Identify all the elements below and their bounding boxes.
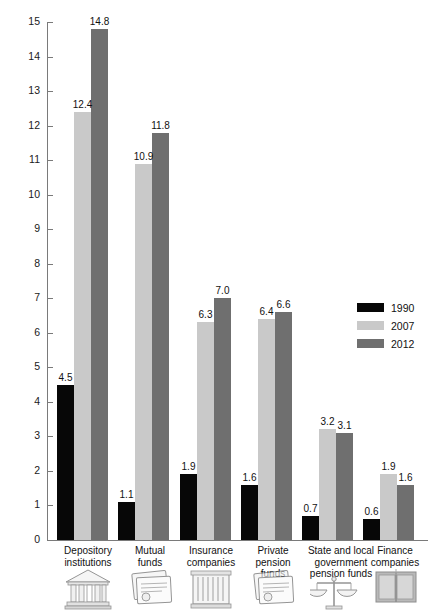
y-axis-tick-label: 7 [0,292,40,303]
bar-2007-5 [319,429,336,540]
bar-1990-1 [57,385,74,540]
y-axis-tick [47,22,53,23]
bar-value-label: 1.1 [113,490,141,500]
y-axis-tick-label: 10 [0,189,40,200]
bar-value-label: 1.6 [236,473,264,483]
y-axis-tick [47,402,53,403]
bar-value-label: 11.8 [147,121,175,131]
bar-value-label: 6.3 [192,310,220,320]
bar-chart: 0123456789101112131415 4.512.414.81.110.… [0,0,430,612]
documents-stack-icon [250,566,298,608]
bar-1990-2 [118,502,135,540]
y-axis-tick [47,471,53,472]
bar-2012-5 [336,433,353,540]
y-axis-tick [47,540,53,541]
open-book-icon [372,566,420,608]
bar-value-label: 3.1 [331,421,359,431]
bar-2007-4 [258,319,275,540]
y-axis-tick [47,229,53,230]
category-label-line: Finance [360,545,430,557]
y-axis-line [47,22,48,541]
y-axis-tick-label: 11 [0,154,40,165]
y-axis-tick [47,333,53,334]
legend-item-2012: 2012 [357,336,429,351]
bar-value-label: 1.9 [375,462,403,472]
y-axis-tick [47,91,53,92]
y-axis-tick-label: 15 [0,16,40,27]
y-axis-tick-label: 6 [0,327,40,338]
y-axis-tick [47,57,53,58]
y-axis-tick [47,298,53,299]
bar-1990-5 [302,516,319,540]
y-axis-tick-label: 9 [0,223,40,234]
legend: 199020072012 [357,300,429,354]
bar-1990-3 [180,474,197,540]
bar-value-label: 10.9 [130,152,158,162]
bar-value-label: 14.8 [86,17,114,27]
bar-2012-6 [397,485,414,540]
y-axis-tick-label: 13 [0,85,40,96]
y-axis-tick-label: 4 [0,396,40,407]
office-building-icon [187,568,235,610]
bar-1990-4 [241,485,258,540]
y-axis-tick-label: 8 [0,258,40,269]
y-axis-tick-label: 12 [0,120,40,131]
bar-value-label: 12.4 [69,100,97,110]
legend-swatch-icon [357,339,384,348]
y-axis-tick [47,264,53,265]
legend-swatch-icon [357,321,384,330]
y-axis-tick [47,436,53,437]
y-axis-tick-label: 2 [0,465,40,476]
bar-2007-2 [135,164,152,540]
bar-2012-4 [275,312,292,540]
y-axis-tick [47,367,53,368]
bar-value-label: 0.7 [297,504,325,514]
scales-of-justice-icon [310,572,358,612]
y-axis-tick-label: 0 [0,534,40,545]
bar-value-label: 7.0 [209,286,237,296]
y-axis-tick [47,505,53,506]
bank-building-icon [64,568,112,610]
x-axis-line [47,540,428,541]
legend-item-2007: 2007 [357,318,429,333]
legend-swatch-icon [357,303,384,312]
bar-value-label: 1.9 [175,462,203,472]
legend-label: 2007 [391,321,414,331]
bar-value-label: 0.6 [358,507,386,517]
bar-2007-3 [197,322,214,540]
bar-1990-6 [363,519,380,540]
bar-value-label: 1.6 [392,473,420,483]
y-axis-tick [47,160,53,161]
legend-label: 1990 [391,303,414,313]
bar-2007-1 [74,112,91,540]
bar-2012-2 [152,133,169,540]
y-axis-tick-label: 3 [0,430,40,441]
legend-label: 2012 [391,339,414,349]
bar-2012-3 [214,298,231,540]
documents-stack-icon [128,566,176,608]
category-label-6: Financecompanies [360,545,430,568]
y-axis-tick [47,126,53,127]
y-axis-tick-label: 5 [0,361,40,372]
y-axis-tick-label: 14 [0,51,40,62]
y-axis-tick [47,195,53,196]
bar-value-label: 4.5 [52,373,80,383]
bar-value-label: 6.6 [270,300,298,310]
y-axis-tick-label: 1 [0,499,40,510]
legend-item-1990: 1990 [357,300,429,315]
